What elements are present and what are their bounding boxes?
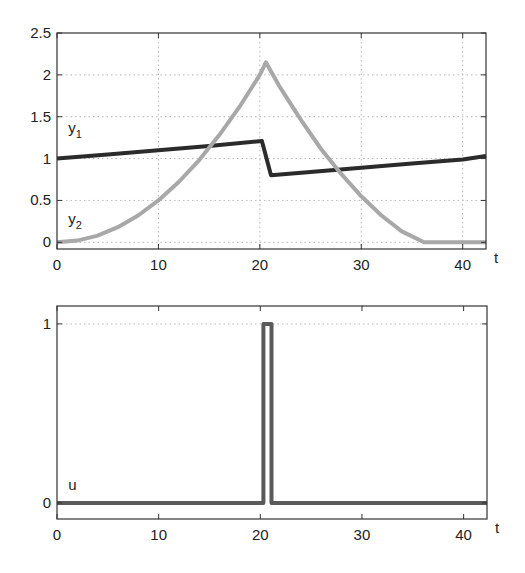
lower-plot-u: u01020304001t — [43, 306, 500, 543]
svg-text:10: 10 — [150, 256, 167, 273]
svg-text:20: 20 — [252, 526, 269, 543]
svg-text:30: 30 — [353, 256, 370, 273]
y-axis-ticks: 00.511.522.5 — [30, 24, 486, 250]
svg-text:1: 1 — [43, 150, 51, 167]
svg-text:40: 40 — [454, 256, 471, 273]
svg-text:30: 30 — [354, 526, 371, 543]
svg-text:0: 0 — [43, 233, 51, 250]
grid-lines — [57, 33, 486, 249]
svg-text:0: 0 — [53, 256, 61, 273]
series-label-y2: y2 — [68, 210, 82, 231]
svg-text:0.5: 0.5 — [30, 191, 51, 208]
figure: y1y201020304000.511.522.5t u01020304001t — [0, 0, 525, 573]
series-u — [57, 324, 487, 503]
x-axis-label: t — [494, 249, 499, 266]
svg-text:10: 10 — [150, 526, 167, 543]
series-label-y1: y1 — [68, 119, 82, 140]
upper-plot-y1-y2: y1y201020304000.511.522.5t — [30, 24, 499, 273]
x-axis-label: t — [495, 519, 500, 536]
svg-text:0: 0 — [53, 526, 61, 543]
svg-text:0: 0 — [43, 494, 51, 511]
axes-frame — [57, 33, 486, 249]
svg-text:2.5: 2.5 — [30, 24, 51, 41]
series-label-u: u — [68, 476, 76, 493]
svg-text:2: 2 — [43, 66, 51, 83]
svg-text:40: 40 — [455, 526, 472, 543]
svg-text:1: 1 — [43, 315, 51, 332]
svg-text:20: 20 — [251, 256, 268, 273]
svg-text:1.5: 1.5 — [30, 108, 51, 125]
